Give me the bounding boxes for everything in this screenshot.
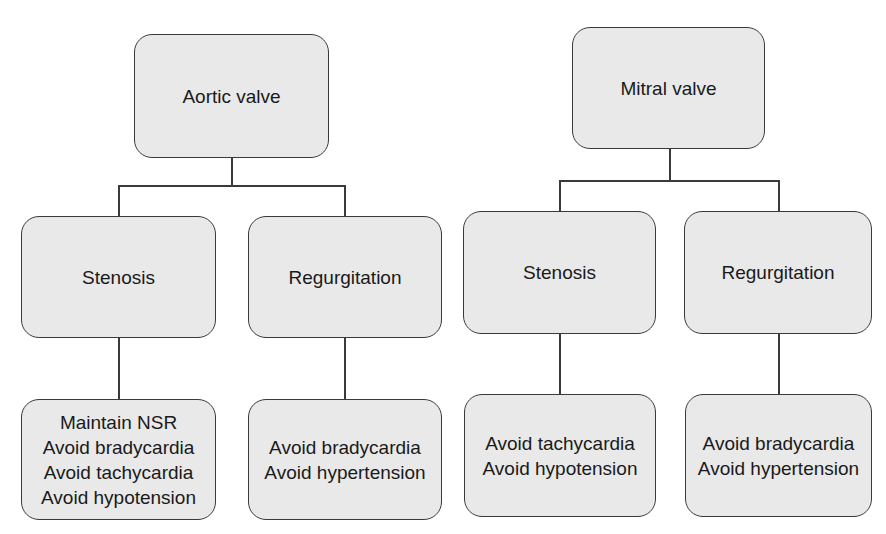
recommendation-item: Maintain NSR bbox=[60, 410, 177, 435]
aortic-regurgitation-node: Regurgitation bbox=[248, 216, 442, 338]
recommendation-item: Avoid tachycardia bbox=[44, 460, 194, 485]
mitral-stenosis-node: Stenosis bbox=[463, 211, 656, 334]
connector bbox=[118, 337, 120, 400]
aortic-stenosis-label: Stenosis bbox=[82, 265, 155, 290]
mitral-regurgitation-recommendations: Avoid bradycardia Avoid hypertension bbox=[685, 394, 872, 517]
recommendation-item: Avoid hypotension bbox=[41, 485, 196, 510]
mitral-stenosis-label: Stenosis bbox=[523, 260, 596, 285]
mitral-regurgitation-node: Regurgitation bbox=[684, 211, 872, 334]
recommendation-item: Avoid bradycardia bbox=[43, 435, 195, 460]
connector bbox=[778, 180, 780, 212]
connector bbox=[559, 180, 561, 212]
connector bbox=[559, 333, 561, 395]
aortic-stenosis-node: Stenosis bbox=[21, 216, 216, 338]
connector bbox=[231, 157, 233, 186]
mitral-valve-label: Mitral valve bbox=[620, 76, 716, 101]
recommendation-item: Avoid hypertension bbox=[264, 460, 425, 485]
connector bbox=[778, 333, 780, 395]
aortic-valve-label: Aortic valve bbox=[182, 84, 280, 109]
mitral-stenosis-recommendations: Avoid tachycardia Avoid hypotension bbox=[464, 394, 656, 517]
mitral-regurgitation-label: Regurgitation bbox=[721, 260, 834, 285]
recommendation-item: Avoid tachycardia bbox=[485, 431, 635, 456]
connector bbox=[559, 180, 779, 182]
connector bbox=[344, 185, 346, 217]
connector bbox=[118, 185, 345, 187]
recommendation-item: Avoid hypotension bbox=[483, 456, 638, 481]
mitral-valve-node: Mitral valve bbox=[572, 27, 765, 149]
recommendation-item: Avoid hypertension bbox=[698, 456, 859, 481]
connector bbox=[669, 148, 671, 181]
connector bbox=[118, 185, 120, 217]
recommendation-item: Avoid bradycardia bbox=[269, 435, 421, 460]
aortic-stenosis-recommendations: Maintain NSR Avoid bradycardia Avoid tac… bbox=[21, 399, 216, 520]
aortic-valve-node: Aortic valve bbox=[134, 34, 329, 158]
connector bbox=[344, 337, 346, 400]
aortic-regurgitation-label: Regurgitation bbox=[288, 265, 401, 290]
recommendation-item: Avoid bradycardia bbox=[703, 431, 855, 456]
aortic-regurgitation-recommendations: Avoid bradycardia Avoid hypertension bbox=[248, 399, 442, 520]
